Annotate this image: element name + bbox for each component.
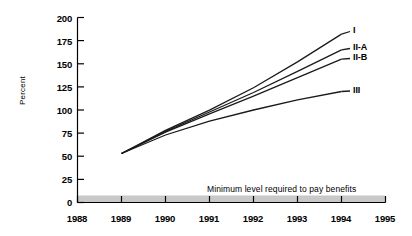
x-tick-label-1990: 1990 [145, 213, 185, 224]
x-tick-label-1989: 1989 [101, 213, 141, 224]
series-label-I: I [353, 25, 355, 35]
y-tick-label-0: 0 [42, 197, 72, 208]
series-leader-II-A [342, 49, 351, 50]
y-tick-label-200: 200 [42, 13, 72, 24]
y-tick-label-50: 50 [42, 151, 72, 162]
y-tick-label-125: 125 [42, 82, 72, 93]
series-label-II-B: II-B [353, 52, 367, 62]
y-axis-title: Percent [18, 61, 27, 121]
minimum-level-annotation: Minimum level required to pay benefits [207, 184, 356, 194]
y-tick-label-150: 150 [42, 59, 72, 70]
series-leader-II-B [342, 59, 351, 60]
y-tick-label-175: 175 [42, 36, 72, 47]
x-tick-label-1991: 1991 [189, 213, 229, 224]
y-tick-label-100: 100 [42, 105, 72, 116]
series-line-III [122, 92, 342, 154]
series-leader-III [342, 91, 351, 92]
x-tick-label-1994: 1994 [321, 213, 361, 224]
y-tick-label-25: 25 [42, 174, 72, 185]
percent-projection-line-chart: Percent 200 175 150 125 100 75 50 25 0 1… [0, 0, 412, 236]
series-leader-I [342, 32, 351, 35]
x-tick-label-1988: 1988 [57, 213, 97, 224]
minimum-level-band [78, 196, 385, 203]
y-tick-label-75: 75 [42, 128, 72, 139]
y-axis-ticks [78, 18, 85, 203]
x-tick-label-1995: 1995 [365, 213, 405, 224]
series-line-I [122, 34, 342, 153]
series-label-III: III [353, 85, 360, 95]
x-tick-label-1993: 1993 [277, 213, 317, 224]
series-label-II-A: II-A [353, 42, 367, 52]
x-tick-label-1992: 1992 [233, 213, 273, 224]
